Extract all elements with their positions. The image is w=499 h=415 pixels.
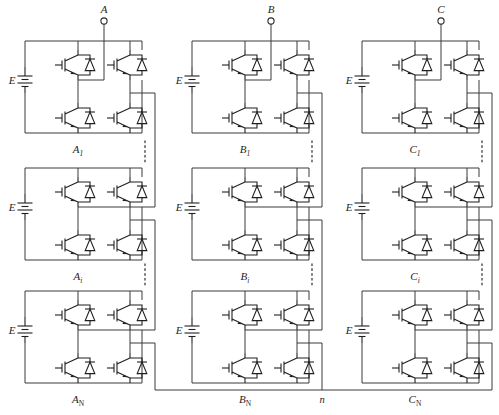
igbt-bi-q4 xyxy=(274,230,314,260)
igbt-c1-q2 xyxy=(444,50,484,80)
source-label-bn: E xyxy=(175,324,183,336)
igbt-cn-q1 xyxy=(392,300,432,330)
igbt-ci-q2 xyxy=(444,177,484,207)
igbt-b1-q3 xyxy=(222,103,262,133)
dc-source-bi xyxy=(185,194,200,220)
cell-bi xyxy=(185,168,323,267)
igbt-ai-q1 xyxy=(55,177,95,207)
igbt-c1-q4 xyxy=(444,103,484,133)
dc-source-ci xyxy=(355,194,370,220)
source-label-a1: E xyxy=(8,74,16,86)
igbt-cn-q3 xyxy=(392,353,432,383)
igbt-ci-q4 xyxy=(444,230,484,260)
igbt-a1-q1 xyxy=(55,50,95,80)
igbt-b1-q4 xyxy=(274,103,314,133)
igbt-c1-q1 xyxy=(392,50,432,80)
igbt-bn-q3 xyxy=(222,353,262,383)
cell-label-c1: C1 xyxy=(409,143,420,158)
igbt-bi-q3 xyxy=(222,230,262,260)
cell-label-b1: B1 xyxy=(240,143,250,158)
igbt-ai-q2 xyxy=(107,177,147,207)
source-label-c1: E xyxy=(345,74,353,86)
igbt-ai-q4 xyxy=(107,230,147,260)
terminal-circle-a xyxy=(101,18,107,24)
dc-source-an xyxy=(18,317,33,343)
terminal-circle-b xyxy=(268,18,274,24)
cell-c1 xyxy=(355,23,493,140)
igbt-ci-q1 xyxy=(392,177,432,207)
terminal-label-b: B xyxy=(268,3,275,15)
igbt-an-q1 xyxy=(55,300,95,330)
cell-label-bi: Bi xyxy=(241,270,250,285)
source-label-b1: E xyxy=(175,74,183,86)
igbt-an-q2 xyxy=(107,300,147,330)
cell-ai xyxy=(18,168,156,267)
igbt-a1-q3 xyxy=(55,103,95,133)
igbt-c1-q3 xyxy=(392,103,432,133)
cell-label-bn: BN xyxy=(239,393,252,408)
igbt-bn-q4 xyxy=(274,353,314,383)
cell-bn xyxy=(185,291,323,390)
dc-source-b1 xyxy=(185,67,200,93)
terminal-label-a: A xyxy=(100,3,108,15)
igbt-ai-q3 xyxy=(55,230,95,260)
dc-source-c1 xyxy=(355,67,370,93)
igbt-a1-q4 xyxy=(107,103,147,133)
cell-b1 xyxy=(185,23,323,140)
cell-ci xyxy=(355,168,493,267)
dc-source-ai xyxy=(18,194,33,220)
source-label-ai: E xyxy=(8,201,16,213)
cell-label-ci: Ci xyxy=(410,270,419,285)
cell-label-cn: CN xyxy=(409,393,422,408)
igbt-a1-q2 xyxy=(107,50,147,80)
neutral-label: n xyxy=(319,394,324,405)
source-label-ci: E xyxy=(345,201,353,213)
cell-a1 xyxy=(18,23,156,140)
cell-an xyxy=(18,291,156,390)
circuit-schematic: A1 E A B1 E B xyxy=(0,0,499,415)
cell-label-an: AN xyxy=(71,393,85,408)
igbt-cn-q2 xyxy=(444,300,484,330)
terminal-label-c: C xyxy=(437,3,445,15)
igbt-bn-q2 xyxy=(274,300,314,330)
igbt-an-q4 xyxy=(107,353,147,383)
igbt-an-q3 xyxy=(55,353,95,383)
terminal-circle-c xyxy=(438,18,444,24)
igbt-bi-q1 xyxy=(222,177,262,207)
source-label-cn: E xyxy=(345,324,353,336)
igbt-bi-q2 xyxy=(274,177,314,207)
igbt-ci-q3 xyxy=(392,230,432,260)
source-label-bi: E xyxy=(175,201,183,213)
igbt-bn-q1 xyxy=(222,300,262,330)
igbt-cn-q4 xyxy=(444,353,484,383)
figure-canvas: A1 E A B1 E B xyxy=(0,0,499,415)
cell-label-a1: A1 xyxy=(72,143,83,158)
dc-source-a1 xyxy=(18,67,33,93)
igbt-b1-q2 xyxy=(274,50,314,80)
source-label-an: E xyxy=(8,324,16,336)
dc-source-cn xyxy=(355,317,370,343)
dc-source-bn xyxy=(185,317,200,343)
cell-cn xyxy=(355,291,493,390)
igbt-b1-q1 xyxy=(222,50,262,80)
cell-label-ai: Ai xyxy=(73,270,83,285)
